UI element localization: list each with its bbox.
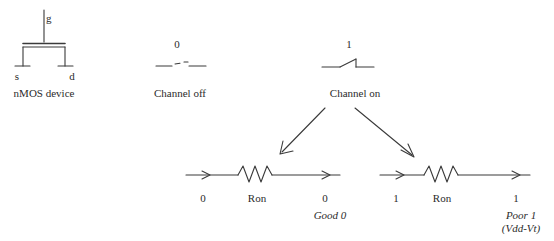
- gate-terminal-label: g: [46, 12, 52, 24]
- pass-one-input-label: 1: [393, 192, 399, 204]
- channel-on-gate-value: 1: [346, 38, 352, 50]
- pass-zero-circuit: [186, 166, 340, 182]
- closed-switch-blade: [340, 59, 356, 67]
- channel-on-caption: Channel on: [330, 87, 380, 99]
- pass-one-resistor: [424, 166, 458, 182]
- pass-one-circuit: [380, 166, 530, 182]
- pass-zero-resistor: [238, 166, 272, 182]
- pass-one-quality-label: Poor 1: [506, 209, 536, 221]
- pass-zero-quality-label: Good 0: [314, 209, 347, 221]
- pass-zero-resistor-label: Ron: [248, 192, 266, 204]
- diagram-canvas: g s d nMOS device 0 Channel off 1 Channe…: [0, 0, 554, 241]
- branch-arrow-left: [280, 108, 325, 154]
- source-terminal-label: s: [15, 70, 19, 82]
- diagram-vector-layer: [0, 0, 554, 241]
- nmos-device-caption: nMOS device: [14, 87, 75, 99]
- open-switch-blade: [175, 63, 180, 64]
- pass-one-note-label: (Vdd-Vt): [502, 222, 540, 234]
- pass-one-resistor-label: Ron: [433, 192, 451, 204]
- pass-zero-output-label: 0: [322, 192, 328, 204]
- pass-zero-input-label: 0: [200, 192, 206, 204]
- drain-terminal-label: d: [69, 70, 75, 82]
- closed-switch-icon: [322, 59, 374, 67]
- channel-off-gate-value: 0: [174, 38, 180, 50]
- channel-off-caption: Channel off: [154, 87, 206, 99]
- branch-arrow-right: [355, 108, 414, 157]
- nmos-transistor-symbol: [15, 10, 73, 66]
- pass-one-output-label: 1: [513, 192, 519, 204]
- open-switch-icon: [156, 62, 206, 66]
